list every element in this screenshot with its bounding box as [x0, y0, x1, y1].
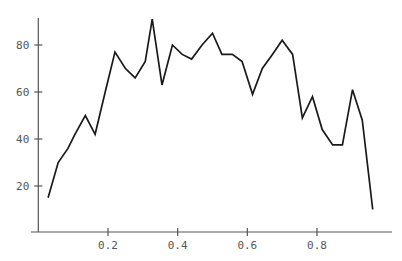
x-tick-label: 0.8 — [307, 239, 327, 252]
data-line-series-1 — [48, 19, 373, 209]
x-tick-label: 0.2 — [98, 239, 118, 252]
chart-plot-area: 20406080 0.20.40.60.8 — [0, 0, 402, 261]
y-tick-label: 60 — [16, 86, 29, 99]
y-axis-group: 20406080 — [16, 18, 42, 232]
x-tick-label: 0.4 — [168, 239, 188, 252]
data-series-group — [48, 19, 373, 209]
line-chart: 20406080 0.20.40.60.8 — [0, 0, 402, 261]
y-tick-label: 80 — [16, 39, 29, 52]
y-tick-label: 20 — [16, 180, 29, 193]
x-axis-group: 0.20.40.60.8 — [31, 228, 392, 252]
y-tick-label: 40 — [16, 133, 29, 146]
x-tick-label: 0.6 — [237, 239, 257, 252]
